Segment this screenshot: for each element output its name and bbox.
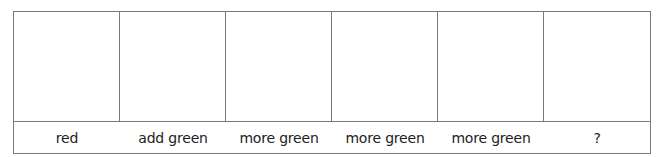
label-unknown: ? (544, 122, 650, 153)
swatch-cell-add-green (120, 12, 226, 122)
label-red: red (14, 122, 120, 153)
swatch-cell-red (14, 12, 120, 122)
color-mixing-table: red add green more green more green more… (13, 11, 651, 154)
label-add-green: add green (120, 122, 226, 153)
label-more-green-3: more green (438, 122, 544, 153)
swatch-cell-more-green-2 (332, 12, 438, 122)
swatch-cell-more-green-3 (438, 12, 544, 122)
label-more-green-1: more green (226, 122, 332, 153)
label-more-green-2: more green (332, 122, 438, 153)
swatch-cell-more-green-1 (226, 12, 332, 122)
swatch-cell-unknown (544, 12, 650, 122)
